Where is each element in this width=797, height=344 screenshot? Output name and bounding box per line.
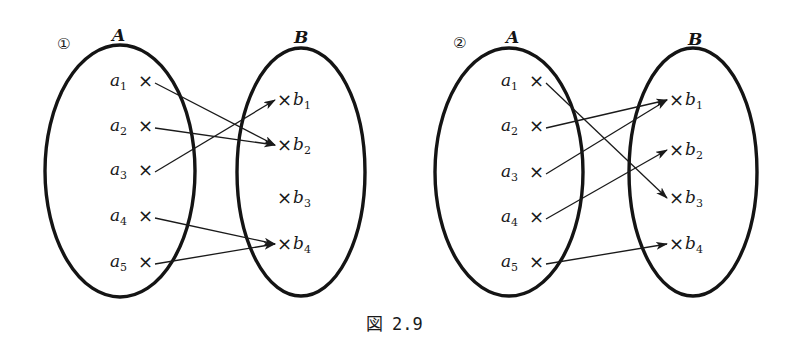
element-a2: a2× bbox=[110, 115, 153, 138]
cross-point-icon: × bbox=[277, 134, 292, 155]
arrow-a2-to-b1 bbox=[546, 100, 667, 128]
element-b4: ×b4 bbox=[669, 233, 703, 256]
element-subscript: 1 bbox=[120, 80, 127, 93]
cross-point-icon: × bbox=[669, 139, 684, 160]
element-label: b bbox=[293, 134, 304, 154]
cross-point-icon: × bbox=[138, 70, 153, 91]
element-label: b bbox=[293, 233, 304, 253]
cross-point-icon: × bbox=[138, 251, 153, 272]
figure-caption: 図 2.9 bbox=[366, 314, 423, 334]
element-b1: ×b1 bbox=[669, 89, 703, 112]
element-label: a bbox=[501, 70, 511, 90]
diagram-1: AB①a1×a2×a3×a4×a5××b1×b2×b3×b4 bbox=[45, 25, 365, 297]
element-label: a bbox=[501, 161, 511, 181]
element-subscript: 2 bbox=[511, 125, 518, 138]
arrow-a4-to-b2 bbox=[546, 150, 667, 219]
cross-point-icon: × bbox=[138, 159, 153, 180]
element-subscript: 4 bbox=[511, 216, 518, 229]
cross-point-icon: × bbox=[277, 89, 292, 110]
cross-point-icon: × bbox=[529, 161, 544, 182]
element-a5: a5× bbox=[110, 251, 153, 274]
element-subscript: 4 bbox=[120, 215, 127, 228]
element-subscript: 3 bbox=[304, 197, 311, 210]
caption-number: 2.9 bbox=[392, 314, 423, 334]
element-subscript: 3 bbox=[696, 197, 703, 210]
element-a3: a3× bbox=[501, 161, 544, 184]
element-subscript: 1 bbox=[304, 99, 311, 112]
element-label: a bbox=[110, 70, 120, 90]
element-subscript: 4 bbox=[304, 243, 311, 256]
cross-point-icon: × bbox=[669, 233, 684, 254]
element-label: a bbox=[501, 206, 511, 226]
mapping-figure: AB①a1×a2×a3×a4×a5××b1×b2×b3×b4 AB②a1×a2×… bbox=[0, 0, 797, 344]
diagram-number-marker: ② bbox=[453, 34, 466, 52]
element-subscript: 2 bbox=[120, 125, 127, 138]
element-subscript: 4 bbox=[696, 243, 703, 256]
cross-point-icon: × bbox=[669, 187, 684, 208]
set-a-name: A bbox=[110, 25, 125, 45]
element-label: b bbox=[685, 89, 696, 109]
cross-point-icon: × bbox=[529, 115, 544, 136]
element-subscript: 3 bbox=[511, 171, 518, 184]
cross-point-icon: × bbox=[529, 251, 544, 272]
element-label: b bbox=[685, 233, 696, 253]
set-b-name: B bbox=[687, 29, 702, 49]
cross-point-icon: × bbox=[138, 115, 153, 136]
element-label: a bbox=[110, 159, 120, 179]
element-subscript: 1 bbox=[511, 80, 518, 93]
diagram-number-marker: ① bbox=[57, 35, 70, 53]
set-b-name: B bbox=[293, 27, 308, 47]
element-label: b bbox=[685, 139, 696, 159]
set-a-name: A bbox=[504, 27, 519, 47]
set-b-ellipse bbox=[629, 48, 757, 296]
arrow-a4-to-b4 bbox=[155, 218, 275, 244]
element-label: b bbox=[685, 187, 696, 207]
element-a2: a2× bbox=[501, 115, 544, 138]
arrow-a1-to-b3 bbox=[546, 83, 667, 198]
element-label: b bbox=[293, 187, 304, 207]
element-subscript: 2 bbox=[696, 149, 703, 162]
cross-point-icon: × bbox=[529, 206, 544, 227]
cross-point-icon: × bbox=[529, 70, 544, 91]
element-b2: ×b2 bbox=[277, 134, 311, 157]
element-label: a bbox=[501, 251, 511, 271]
element-a1: a1× bbox=[501, 70, 544, 93]
element-subscript: 2 bbox=[304, 144, 311, 157]
element-label: a bbox=[110, 205, 120, 225]
element-b3: ×b3 bbox=[669, 187, 703, 210]
element-b4: ×b4 bbox=[277, 233, 311, 256]
element-subscript: 1 bbox=[696, 99, 703, 112]
element-subscript: 5 bbox=[511, 261, 518, 274]
element-label: b bbox=[293, 89, 304, 109]
element-subscript: 5 bbox=[120, 261, 127, 274]
element-a4: a4× bbox=[501, 206, 544, 229]
set-b-ellipse bbox=[237, 48, 365, 296]
element-subscript: 3 bbox=[120, 169, 127, 182]
element-b1: ×b1 bbox=[277, 89, 311, 112]
cross-point-icon: × bbox=[277, 233, 292, 254]
cross-point-icon: × bbox=[277, 187, 292, 208]
diagram-2: AB②a1×a2×a3×a4×a5××b1×b2×b3×b4 bbox=[435, 27, 757, 296]
cross-point-icon: × bbox=[138, 205, 153, 226]
cross-point-icon: × bbox=[669, 89, 684, 110]
element-b3: ×b3 bbox=[277, 187, 311, 210]
element-a4: a4× bbox=[110, 205, 153, 228]
caption-prefix: 図 bbox=[366, 314, 383, 334]
element-label: a bbox=[110, 115, 120, 135]
element-b2: ×b2 bbox=[669, 139, 703, 162]
element-a1: a1× bbox=[110, 70, 153, 93]
element-a5: a5× bbox=[501, 251, 544, 274]
element-label: a bbox=[501, 115, 511, 135]
element-label: a bbox=[110, 251, 120, 271]
arrow-a3-to-b1 bbox=[546, 100, 667, 174]
element-a3: a3× bbox=[110, 159, 153, 182]
